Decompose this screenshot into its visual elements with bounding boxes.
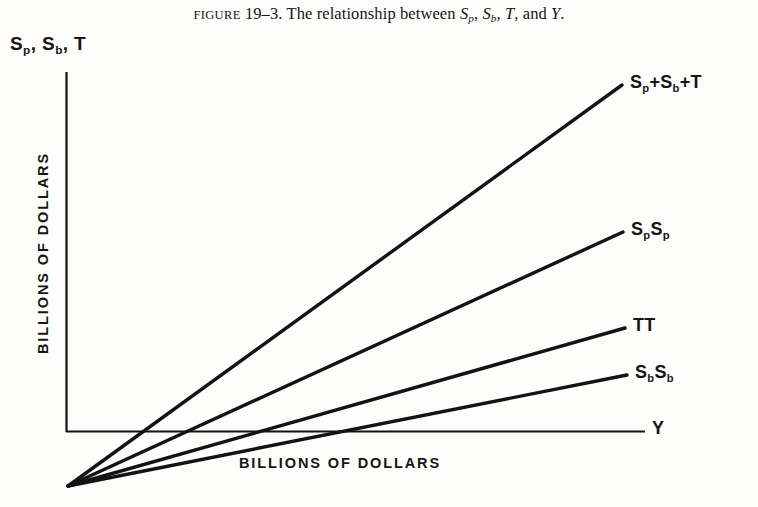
x-axis-title: BILLIONS OF DOLLARS — [180, 455, 500, 471]
line-sp-plus-sb-plus-t — [68, 85, 622, 486]
curve-label-t: TT — [633, 315, 656, 336]
x-axis-end-label: Y — [652, 418, 664, 439]
figure-page: FIGURE 19–3. The relationship between Sp… — [0, 0, 758, 507]
curve-label-sp-plus-sb-plus-t: Sp+Sb+T — [630, 72, 702, 93]
line-sp — [68, 232, 623, 486]
curve-label-sp: SpSp — [631, 219, 670, 240]
curve-label-sb: SbSb — [635, 362, 674, 383]
